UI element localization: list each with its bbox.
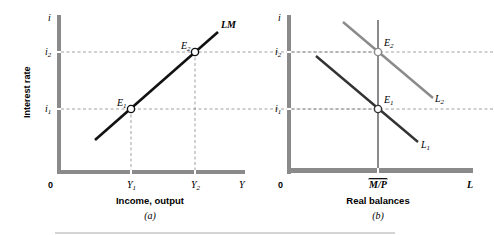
e2-label-a: E2 <box>180 40 191 53</box>
y-axis-a <box>57 15 61 174</box>
tick-gap-i2-b <box>287 51 291 53</box>
x-axis-symbol-b: L <box>466 179 473 190</box>
tick-gap-i1 <box>57 108 61 110</box>
point-e2-b <box>374 48 381 55</box>
tick-y2: Y2 <box>191 179 201 192</box>
l2-label: L2 <box>434 93 445 106</box>
caption-b: (b) <box>372 210 384 222</box>
y-axis-symbol-a: i <box>48 12 51 23</box>
point-e1-b <box>374 105 381 112</box>
tick-i1-b: i1 <box>275 103 281 116</box>
lm-curve <box>95 32 218 140</box>
tick-i2-b: i2 <box>275 46 282 59</box>
tick-gap-mp <box>377 168 379 173</box>
panel-b: i i2 i1 0 M/P L Real balances (b) E2 E1 … <box>275 12 473 222</box>
lm-label: LM <box>220 19 237 30</box>
point-e2-a <box>191 48 198 55</box>
panel-a: i i2 i1 Interest rate 0 Y1 Y2 Y Income, … <box>22 12 494 222</box>
tick-gap-y1 <box>130 170 132 174</box>
tick-y1: Y1 <box>127 179 136 192</box>
x-axis-a <box>57 170 245 174</box>
y-axis-title-a: Interest rate <box>22 66 32 118</box>
l2-curve <box>343 22 433 98</box>
tick-gap-i2 <box>57 51 61 53</box>
l1-curve <box>316 56 418 142</box>
x-axis-symbol-a: Y <box>239 179 246 190</box>
tick-mp: M/P <box>368 179 388 190</box>
x-axis-b <box>287 168 473 173</box>
e2-label-b: E2 <box>383 37 394 50</box>
tick-gap-i1-b <box>287 108 291 110</box>
x-axis-title-b: Real balances <box>346 195 409 206</box>
e1-label-b: E1 <box>383 94 394 107</box>
e1-label-a: E1 <box>116 97 127 110</box>
y-axis-symbol-b: i <box>278 12 281 23</box>
x-axis-title-a: Income, output <box>116 195 185 206</box>
origin-a: 0 <box>48 180 53 190</box>
point-e1-a <box>127 105 134 112</box>
money-supply-line <box>377 20 379 168</box>
l1-label: L1 <box>420 139 430 152</box>
tick-i2-a: i2 <box>45 46 52 59</box>
tick-gap-y2 <box>194 170 196 174</box>
lm-diagram: i i2 i1 Interest rate 0 Y1 Y2 Y Income, … <box>0 0 494 235</box>
y-axis-b <box>287 15 291 174</box>
tick-i1-a: i1 <box>45 103 51 116</box>
origin-b: 0 <box>278 180 283 190</box>
caption-a: (a) <box>144 210 156 222</box>
